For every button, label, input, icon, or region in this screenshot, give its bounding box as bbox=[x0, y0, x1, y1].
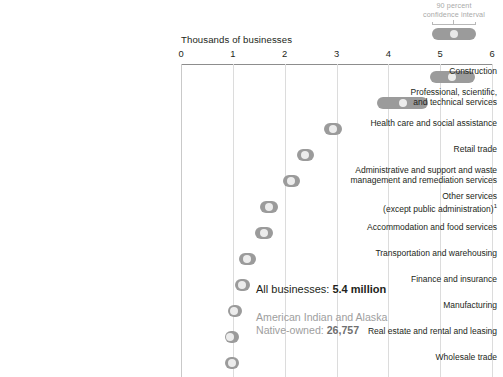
category-label-3: Retail trade bbox=[323, 144, 503, 154]
annotation-native-owned: American Indian and Alaska Native-owned:… bbox=[256, 297, 456, 338]
x-tick-1: 1 bbox=[230, 48, 235, 59]
x-tick-5: 5 bbox=[438, 48, 443, 59]
annotation-native-label: American Indian and Alaska Native-owned: bbox=[256, 311, 387, 337]
x-tick-6: 6 bbox=[489, 48, 494, 59]
chart-root: 90 percent confidence interval Thousands… bbox=[0, 0, 503, 377]
summary-annotation: All businesses: 5.4 million American Ind… bbox=[256, 282, 456, 338]
legend-bracket-icon bbox=[432, 20, 476, 27]
x-tick-2: 2 bbox=[282, 48, 287, 59]
legend-label: 90 percent confidence interval bbox=[408, 2, 500, 19]
category-label-11: Wholesale trade bbox=[323, 352, 503, 362]
chart-legend: 90 percent confidence interval bbox=[408, 2, 500, 40]
category-label-1: Professional, scientific, and technical … bbox=[323, 87, 503, 107]
legend-point-dot bbox=[450, 30, 458, 38]
legend-interval-marker bbox=[432, 28, 476, 40]
category-label-0: Construction bbox=[323, 66, 503, 76]
x-axis-title: Thousands of businesses bbox=[181, 34, 292, 45]
annotation-all-businesses: All businesses: 5.4 million bbox=[256, 282, 456, 297]
category-label-4: Administrative and support and waste man… bbox=[323, 165, 503, 185]
data-point-dot bbox=[228, 359, 236, 367]
data-point-dot bbox=[230, 307, 238, 315]
annotation-native-value: 26,757 bbox=[327, 324, 359, 336]
x-tick-3: 3 bbox=[334, 48, 339, 59]
x-tick-0: 0 bbox=[178, 48, 183, 59]
category-label-6: Accommodation and food services bbox=[323, 222, 503, 232]
category-label-2: Health care and social assistance bbox=[323, 118, 503, 128]
category-label-7: Transportation and warehousing bbox=[323, 248, 503, 258]
footnote-marker: 1 bbox=[494, 203, 497, 209]
annotation-all-value: 5.4 million bbox=[332, 283, 386, 295]
x-tick-4: 4 bbox=[386, 48, 391, 59]
data-point-dot bbox=[260, 229, 268, 237]
category-label-5: Other services (except public administra… bbox=[323, 191, 503, 214]
gridline-0 bbox=[181, 64, 182, 377]
annotation-all-label: All businesses: bbox=[256, 283, 332, 295]
